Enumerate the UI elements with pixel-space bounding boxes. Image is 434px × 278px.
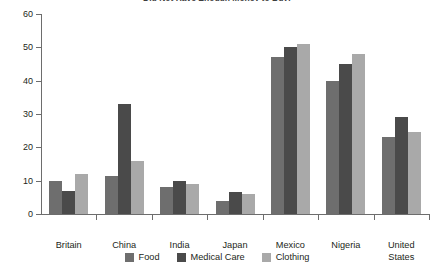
y-axis-label: 20	[23, 142, 33, 152]
bar	[75, 174, 88, 214]
chart-title: Did Not Have Enough Money to Buy:	[0, 0, 434, 1]
x-axis-category-label: Japan	[207, 240, 262, 252]
x-axis-category-label: Britain	[41, 240, 96, 252]
x-axis-category-label: Mexico	[263, 240, 318, 252]
legend-label: Clothing	[276, 252, 310, 262]
bar	[382, 137, 395, 214]
x-axis-tick	[207, 214, 208, 220]
bar	[186, 184, 199, 214]
y-axis-label: 60	[23, 9, 33, 19]
bar	[118, 104, 131, 214]
bar	[216, 201, 229, 214]
bar	[62, 191, 75, 214]
bar-chart-figure: Did Not Have Enough Money to Buy: 010203…	[0, 0, 434, 278]
legend-item[interactable]: Medical Care	[177, 252, 245, 262]
x-axis-category-label: Nigeria	[318, 240, 373, 252]
legend-item[interactable]: Food	[125, 252, 160, 262]
bar	[395, 117, 408, 214]
x-axis-tick	[318, 214, 319, 220]
x-axis-line	[41, 214, 430, 215]
plot-area: 0102030405060 BritainChinaIndiaJapanMexi…	[41, 14, 429, 214]
legend-label: Food	[139, 252, 160, 262]
x-axis-tick	[152, 214, 153, 220]
y-axis-label-holder: 40	[41, 81, 42, 82]
y-axis-label-holder: 60	[41, 14, 42, 15]
legend-swatch-icon	[262, 253, 271, 262]
y-axis-label: 10	[23, 176, 33, 186]
bar	[105, 176, 118, 214]
bar	[160, 187, 173, 214]
y-axis-label-holder: 30	[41, 114, 42, 115]
x-axis-tick	[429, 214, 430, 220]
legend-swatch-icon	[125, 253, 134, 262]
bar	[173, 181, 186, 214]
y-axis-label-holder: 10	[41, 181, 42, 182]
x-axis-tick	[374, 214, 375, 220]
chart-legend: FoodMedical CareClothing	[0, 252, 434, 262]
x-axis-tick	[263, 214, 264, 220]
bar	[297, 44, 310, 214]
x-axis-tick	[96, 214, 97, 220]
y-axis-label-holder: 0	[41, 214, 42, 215]
bar	[271, 57, 284, 214]
bar	[242, 194, 255, 214]
y-axis-label: 40	[23, 76, 33, 86]
y-axis-label-holder: 50	[41, 47, 42, 48]
legend-swatch-icon	[177, 253, 186, 262]
y-axis-label-holder: 20	[41, 147, 42, 148]
bar	[131, 161, 144, 214]
x-axis-category-label: India	[152, 240, 207, 252]
bar	[352, 54, 365, 214]
bar	[326, 81, 339, 214]
y-axis-label: 0	[28, 209, 33, 219]
bar	[284, 47, 297, 214]
legend-item[interactable]: Clothing	[262, 252, 310, 262]
x-axis-category-label: China	[96, 240, 151, 252]
y-axis-label: 30	[23, 109, 33, 119]
bar	[408, 132, 421, 214]
bar	[49, 181, 62, 214]
bar	[339, 64, 352, 214]
y-axis-label: 50	[23, 42, 33, 52]
bar	[229, 192, 242, 214]
legend-label: Medical Care	[191, 252, 245, 262]
